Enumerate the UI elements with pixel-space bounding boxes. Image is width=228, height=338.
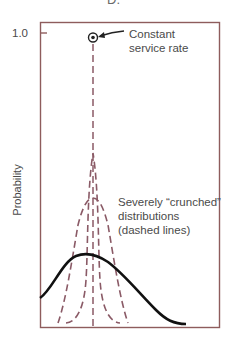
- annotation-line: service rate: [129, 41, 188, 55]
- annotation-line: (dashed lines): [118, 223, 221, 237]
- annotation-line: Severely “crunched”: [118, 195, 221, 209]
- y-axis-label: Probability: [11, 164, 23, 215]
- y-tick-label: 1.0: [12, 27, 28, 39]
- original-distribution: [40, 254, 186, 324]
- plot-area: [0, 0, 228, 338]
- constant-rate-marker-dot: [91, 36, 95, 40]
- annotation-constant-rate: Constant service rate: [129, 27, 188, 55]
- arrowhead-icon: [98, 32, 105, 38]
- annotation-line: distributions: [118, 209, 221, 223]
- annotation-line: Constant: [129, 27, 188, 41]
- annotation-crunched: Severely “crunched” distributions (dashe…: [118, 195, 221, 237]
